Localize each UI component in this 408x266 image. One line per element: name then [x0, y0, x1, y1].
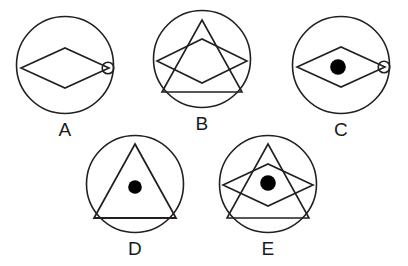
outer-circle-icon — [154, 11, 251, 108]
center-dot-icon — [128, 180, 142, 194]
option-b-figure — [151, 8, 253, 110]
answer-options-board: A B C D E — [0, 0, 408, 266]
answer-option-e[interactable] — [217, 133, 319, 235]
answer-option-b-label: B — [151, 114, 253, 133]
option-c-figure — [290, 14, 392, 116]
answer-option-a[interactable] — [14, 14, 116, 116]
triangle-icon — [162, 20, 242, 92]
answer-option-e-label: E — [217, 239, 319, 258]
rhombus-icon — [21, 48, 109, 88]
center-dot-icon — [260, 175, 276, 191]
option-e-figure — [217, 133, 319, 235]
option-d-figure — [84, 133, 186, 235]
answer-option-d[interactable] — [84, 133, 186, 235]
center-dot-icon — [330, 59, 346, 75]
option-a-figure — [14, 14, 116, 116]
answer-option-c[interactable] — [290, 14, 392, 116]
answer-option-d-label: D — [84, 239, 186, 258]
outer-circle-icon — [17, 17, 114, 114]
answer-option-b[interactable] — [151, 8, 253, 110]
